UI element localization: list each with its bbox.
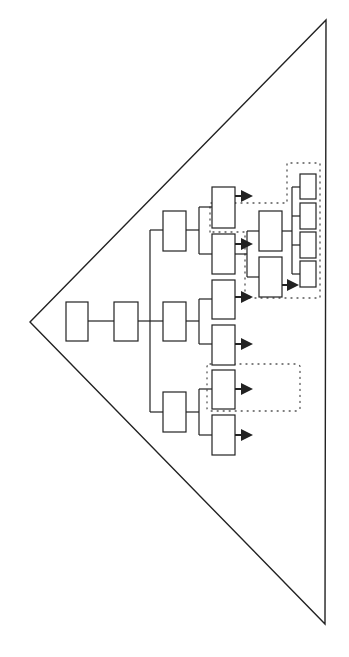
node-box-level2-mid [163, 302, 186, 341]
node-box-sub-1 [259, 211, 282, 251]
tree-boxes [66, 174, 316, 455]
node-box-level3-3 [212, 280, 235, 319]
diagram-canvas [0, 0, 349, 657]
node-box-level3-2 [212, 234, 235, 274]
node-box-level2-top [163, 211, 186, 251]
node-box-root [66, 302, 88, 341]
node-box-leaf-4 [300, 261, 316, 287]
hierarchy-diagram [0, 0, 349, 657]
node-box-level3-4 [212, 325, 235, 365]
node-box-leaf-3 [300, 232, 316, 258]
node-box-level3-5 [212, 370, 235, 409]
node-box-level3-1 [212, 187, 235, 228]
node-box-sub-2 [259, 257, 282, 297]
node-box-level1 [114, 302, 138, 341]
node-box-leaf-2 [300, 203, 316, 229]
node-box-level3-6 [212, 415, 235, 455]
node-box-level2-bottom [163, 392, 186, 432]
node-box-leaf-1 [300, 174, 316, 199]
